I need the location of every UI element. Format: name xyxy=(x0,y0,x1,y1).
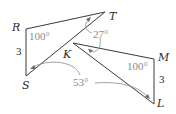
edge-st xyxy=(26,12,105,76)
edge-rt xyxy=(26,12,105,29)
triangle-mkl xyxy=(73,43,154,104)
side-label-rs: 3 xyxy=(16,45,22,57)
vertex-label-k: K xyxy=(62,48,72,61)
side-label-ml: 3 xyxy=(159,73,165,85)
arc-angle-l xyxy=(95,83,148,97)
vertex-label-r: R xyxy=(11,21,20,34)
edge-kl xyxy=(73,43,154,104)
arc-angle-s xyxy=(33,62,80,75)
vertex-label-l: L xyxy=(156,97,164,110)
edge-km xyxy=(73,43,154,59)
geometry-diagram: R S T K M L 3 3 100° 100° 27° 53° xyxy=(0,0,176,114)
angle-label-r: 100° xyxy=(29,30,50,42)
angle-label-27: 27° xyxy=(93,28,108,40)
vertex-label-s: S xyxy=(22,79,30,92)
angle-label-53: 53° xyxy=(73,76,88,88)
arrowhead-k-icon xyxy=(88,49,93,53)
triangle-rst xyxy=(26,12,105,76)
vertex-label-t: T xyxy=(109,10,118,23)
angle-label-m: 100° xyxy=(127,60,148,72)
vertex-label-m: M xyxy=(157,51,170,64)
arc-angle-k xyxy=(90,38,100,52)
